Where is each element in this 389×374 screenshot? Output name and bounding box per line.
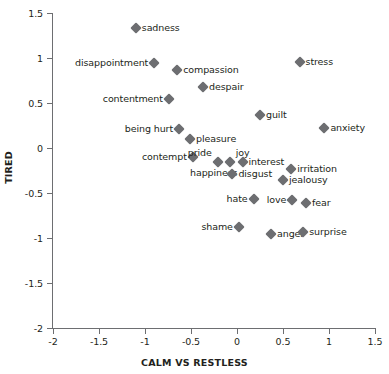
y-tick-mark xyxy=(47,283,52,284)
data-point-label: love xyxy=(267,195,287,205)
x-axis-line xyxy=(52,328,376,329)
x-tick-mark xyxy=(191,329,192,334)
data-point-label: disgust xyxy=(238,169,272,179)
data-point-label: sadness xyxy=(142,23,180,33)
y-tick-label: 0.5 xyxy=(9,98,43,109)
data-point-label: irritation xyxy=(297,164,337,174)
y-axis-title: TIRED xyxy=(3,123,14,213)
x-tick-label: -1.5 xyxy=(79,336,119,347)
x-tick-mark xyxy=(145,329,146,334)
data-point-label: pleasure xyxy=(196,134,236,144)
y-tick-mark xyxy=(47,193,52,194)
x-tick-mark xyxy=(375,329,376,334)
data-point-label: being hurt xyxy=(125,124,173,134)
data-point-label: contentment xyxy=(103,94,163,104)
y-tick-mark xyxy=(47,148,52,149)
x-tick-label: 1 xyxy=(309,336,349,347)
x-tick-label: -1 xyxy=(125,336,165,347)
y-tick-mark xyxy=(47,328,52,329)
cut-off-caption xyxy=(0,368,389,374)
x-tick-label: 1.5 xyxy=(355,336,389,347)
y-tick-label: -2 xyxy=(9,323,43,334)
y-tick-mark xyxy=(47,13,52,14)
y-tick-label: -0.5 xyxy=(9,188,43,199)
data-point-label: compassion xyxy=(183,65,239,75)
x-tick-mark xyxy=(99,329,100,334)
data-point-label: stress xyxy=(306,57,334,67)
x-axis-title: CALM VS RESTLESS xyxy=(0,357,389,368)
y-tick-label: -1.5 xyxy=(9,278,43,289)
data-point-label: hate xyxy=(227,194,248,204)
data-point-label: interest xyxy=(249,157,285,167)
data-point-label: guilt xyxy=(266,110,287,120)
x-tick-label: 0.5 xyxy=(263,336,303,347)
scatter-chart-figure: 1.510.50-0.5-1-1.5-2 -2-1.5-1-0.500.511.… xyxy=(0,0,389,374)
x-tick-mark xyxy=(283,329,284,334)
y-tick-mark xyxy=(47,238,52,239)
x-tick-mark xyxy=(329,329,330,334)
y-tick-label: 1 xyxy=(9,53,43,64)
y-tick-mark xyxy=(47,58,52,59)
x-tick-label: -0.5 xyxy=(171,336,211,347)
y-tick-label: 0 xyxy=(9,143,43,154)
data-point-label: pride xyxy=(188,148,212,158)
y-tick-label: 1.5 xyxy=(9,8,43,19)
data-point-label: fear xyxy=(312,198,331,208)
x-tick-label: 0 xyxy=(217,336,257,347)
data-point-label: despair xyxy=(209,82,244,92)
y-tick-mark xyxy=(47,103,52,104)
data-point-label: contempt xyxy=(142,152,187,162)
data-point-label: disappointment xyxy=(75,58,148,68)
data-point-label: surprise xyxy=(309,227,346,237)
data-point-label: shame xyxy=(201,222,232,232)
x-tick-mark xyxy=(237,329,238,334)
data-point-label: anxiety xyxy=(330,123,365,133)
x-tick-label: -2 xyxy=(33,336,73,347)
y-tick-label: -1 xyxy=(9,233,43,244)
x-tick-mark xyxy=(53,329,54,334)
data-point-label: jealousy xyxy=(289,175,328,185)
